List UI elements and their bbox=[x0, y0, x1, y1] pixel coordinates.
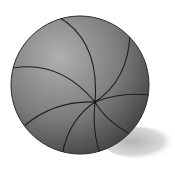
pole-point bbox=[94, 101, 97, 104]
sphere-graphic bbox=[0, 0, 175, 170]
illustration bbox=[0, 0, 175, 170]
